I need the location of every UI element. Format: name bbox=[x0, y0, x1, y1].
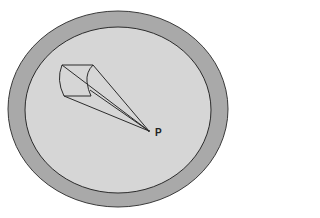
point-p-marker bbox=[148, 130, 150, 132]
point-p-label: P bbox=[155, 128, 162, 138]
